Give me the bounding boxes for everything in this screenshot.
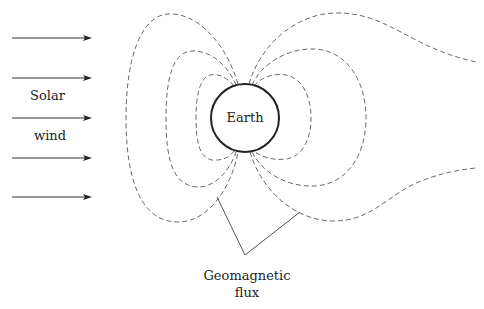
arrow-icon (12, 35, 92, 41)
field-lines-nightside (249, 13, 476, 221)
arrow-icon (12, 155, 92, 161)
label-geomagnetic: Geomagnetic (203, 269, 290, 282)
label-wind: wind (34, 129, 66, 142)
arrow-icon (12, 115, 92, 121)
field-line-tail-upper (249, 13, 476, 84)
label-flux: flux (235, 286, 259, 299)
arrow-icon (12, 75, 92, 81)
pointer-line-left (217, 197, 245, 255)
diagram-svg (0, 0, 484, 309)
field-line-tail-lower (250, 152, 476, 221)
diagram-canvas: Solar wind Earth Geomagnetic flux (0, 0, 484, 309)
solar-wind-arrows (12, 35, 92, 200)
arrow-icon (12, 194, 92, 200)
pointer-line-right (245, 212, 300, 255)
label-earth: Earth (226, 111, 263, 124)
label-solar: Solar (30, 89, 65, 102)
